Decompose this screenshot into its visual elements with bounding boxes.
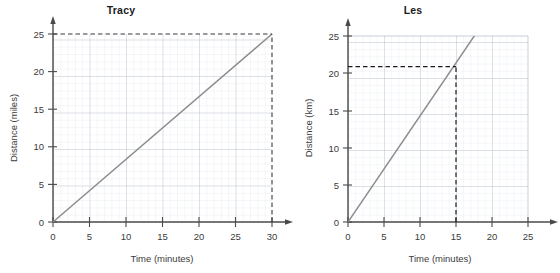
y-tick-labels-tracy: 0 5 10 15 20 25 xyxy=(33,29,44,228)
chart-les-plot: 0 5 10 15 20 25 0 5 10 15 20 25 xyxy=(290,0,560,273)
x-tick-label: 5 xyxy=(381,231,386,242)
screenshot-canvas: Tracy xyxy=(0,0,560,273)
x-axis-title-les: Time (minutes) xyxy=(409,253,472,264)
y-tick-label: 10 xyxy=(328,143,339,154)
y-tick-labels-les: 0 5 10 15 20 25 xyxy=(328,31,339,228)
y-tick-label: 10 xyxy=(33,141,44,152)
chart-tracy: Tracy xyxy=(0,0,290,273)
x-axis-title-tracy: Time (minutes) xyxy=(131,253,194,264)
y-tick-label: 25 xyxy=(33,29,44,40)
y-tick-label: 0 xyxy=(39,217,44,228)
y-tick-label: 15 xyxy=(328,106,339,117)
y-tick-label: 25 xyxy=(328,31,339,42)
x-tick-labels-les: 0 5 10 15 20 25 xyxy=(345,231,533,242)
x-tick-label: 10 xyxy=(121,231,132,242)
x-tick-labels-tracy: 0 5 10 15 20 25 30 xyxy=(50,231,277,242)
x-tick-label: 0 xyxy=(345,231,350,242)
x-tick-label: 25 xyxy=(523,231,534,242)
y-axis-title-les: Distance (km) xyxy=(303,99,314,158)
x-tick-label: 20 xyxy=(194,231,205,242)
y-tick-label: 20 xyxy=(328,68,339,79)
x-tick-label: 25 xyxy=(230,231,241,242)
x-tick-label: 20 xyxy=(487,231,498,242)
x-tick-label: 10 xyxy=(415,231,426,242)
y-tick-label: 5 xyxy=(39,179,44,190)
y-tick-label: 5 xyxy=(334,180,339,191)
chart-tracy-plot: 0 5 10 15 20 25 0 5 10 15 20 25 30 xyxy=(0,0,290,273)
chart-les: Les xyxy=(290,0,560,273)
y-tick-label: 15 xyxy=(33,104,44,115)
y-tick-label: 20 xyxy=(33,66,44,77)
x-tick-label: 5 xyxy=(87,231,92,242)
y-axis-title-tracy: Distance (miles) xyxy=(8,94,19,162)
x-tick-label: 15 xyxy=(451,231,462,242)
y-tick-label: 0 xyxy=(334,217,339,228)
grid-les xyxy=(348,36,528,222)
x-tick-label: 30 xyxy=(267,231,278,242)
x-tick-label: 15 xyxy=(157,231,168,242)
x-tick-label: 0 xyxy=(50,231,55,242)
